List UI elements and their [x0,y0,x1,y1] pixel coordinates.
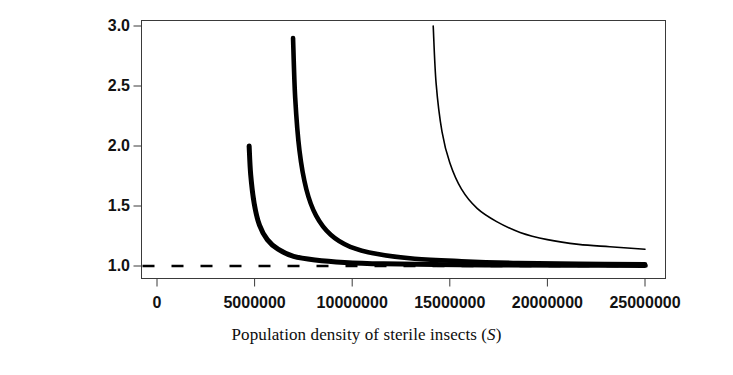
x-tick-label: 5000000 [223,294,285,312]
x-axis-title-text: Population density of sterile insects ( [232,325,488,344]
x-tick-label: 25000000 [609,294,680,312]
x-tick-label: 15000000 [414,294,485,312]
x-axis-ticks [157,279,645,287]
x-axis-title-suffix: ) [496,325,502,344]
x-tick-label: 20000000 [512,294,583,312]
x-axis-title-variable: S [487,325,496,344]
plot-area [0,0,733,375]
figure-container: Relative time for eradication of related… [0,0,733,375]
plot-frame [142,21,666,279]
y-axis-ticks [134,26,142,266]
x-axis-tick-labels: 0500000010000000150000002000000025000000 [0,294,733,318]
x-axis-title: Population density of sterile insects (S… [0,325,733,345]
x-tick-label: 0 [153,294,162,312]
x-tick-label: 10000000 [317,294,388,312]
